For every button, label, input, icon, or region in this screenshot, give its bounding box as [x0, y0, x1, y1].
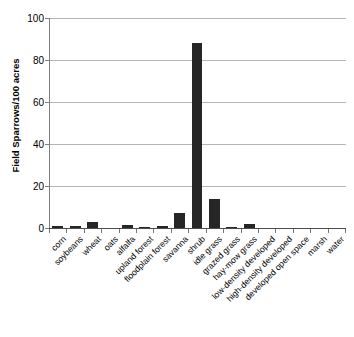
x-axis-tick-label: wheat	[79, 234, 102, 257]
x-axis-tick-mark	[293, 229, 294, 233]
x-axis-tick-mark	[328, 229, 329, 233]
y-axis-tick-label: 80	[4, 55, 44, 66]
bar	[174, 213, 185, 228]
x-axis-tick-mark	[153, 229, 154, 233]
y-axis-tick-mark	[45, 144, 49, 145]
x-axis-tick-label: water	[324, 234, 346, 256]
y-axis-tick-mark	[45, 186, 49, 187]
x-axis-tick-mark	[171, 229, 172, 233]
bar	[192, 43, 203, 228]
y-axis-tick-mark	[45, 102, 49, 103]
y-axis-tick-label: 100	[4, 13, 44, 24]
bar	[52, 226, 63, 228]
bar	[244, 224, 255, 228]
bar	[139, 227, 150, 228]
x-axis-tick-mark	[84, 229, 85, 233]
x-axis-tick-mark	[188, 229, 189, 233]
bars-group	[49, 18, 346, 228]
x-axis-tick-mark	[258, 229, 259, 233]
x-axis-tick-mark	[101, 229, 102, 233]
x-axis-tick-labels: cornsoybeanswheatoatsalfalfaupland fores…	[49, 234, 354, 337]
x-axis-tick-mark	[345, 229, 346, 233]
x-axis-tick-mark	[310, 229, 311, 233]
x-axis-tick-mark	[275, 229, 276, 233]
y-axis-title-text: Field Sparrows/100 acres	[10, 58, 21, 172]
x-axis-tick-mark	[223, 229, 224, 233]
bar	[226, 227, 237, 228]
bar	[157, 226, 168, 228]
x-axis-tick-mark	[66, 229, 67, 233]
x-axis-tick-mark	[136, 229, 137, 233]
bar	[87, 222, 98, 228]
bar-chart: Field Sparrows/100 acres cornsoybeanswhe…	[0, 0, 354, 337]
y-axis-title: Field Sparrows/100 acres	[2, 0, 28, 230]
y-axis-tick-label: 40	[4, 139, 44, 150]
bar	[209, 199, 220, 228]
bar	[70, 226, 81, 228]
x-axis-tick-mark	[49, 229, 50, 233]
y-axis-tick-mark	[45, 228, 49, 229]
bar	[122, 225, 133, 228]
y-axis-tick-label: 20	[4, 181, 44, 192]
y-axis-tick-label: 0	[4, 223, 44, 234]
x-axis-tick-mark	[119, 229, 120, 233]
x-axis-tick-mark	[241, 229, 242, 233]
x-axis-tick-mark	[206, 229, 207, 233]
y-axis-tick-mark	[45, 60, 49, 61]
y-axis-tick-mark	[45, 18, 49, 19]
y-axis-tick-label: 60	[4, 97, 44, 108]
